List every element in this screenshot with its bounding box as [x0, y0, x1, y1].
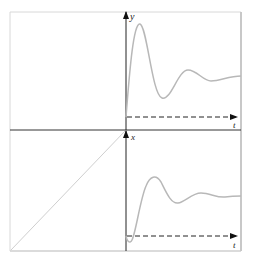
four-quadrant-diagram: y x t t: [0, 0, 259, 262]
bottom-time-label: t: [233, 240, 236, 250]
top-response-curve: [126, 24, 241, 117]
top-time-label: t: [233, 120, 236, 130]
bottom-response-curve: [126, 177, 241, 242]
x-axis-label: x: [130, 132, 135, 142]
y-axis-label: y: [129, 11, 135, 22]
diagonal-mapping-line: [11, 131, 125, 250]
